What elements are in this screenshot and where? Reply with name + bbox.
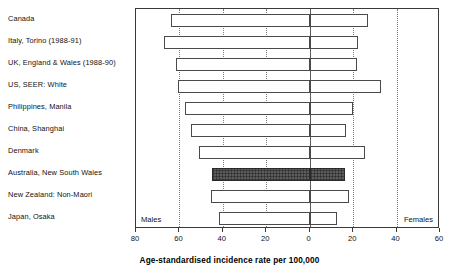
category-label: Denmark <box>8 146 133 155</box>
axis-tick-label: 20 <box>348 234 356 243</box>
males-side-label: Males <box>141 215 161 224</box>
category-label: Italy, Torino (1988-91) <box>8 36 133 45</box>
axis-tick-label: 60 <box>174 234 182 243</box>
category-label: Canada <box>8 14 133 23</box>
axis-tick <box>439 228 440 232</box>
chart-figure: CanadaItaly, Torino (1988-91)UK, England… <box>0 0 459 280</box>
plot-annotations: Males Females <box>136 9 438 227</box>
axis-tick <box>178 228 179 232</box>
axis-tick <box>309 228 310 232</box>
category-label: New Zealand: Non-Maori <box>8 190 133 199</box>
axis-tick-label: 20 <box>261 234 269 243</box>
axis-tick-label: 80 <box>131 234 139 243</box>
axis-tick <box>265 228 266 232</box>
category-label: Philippines, Manila <box>8 102 133 111</box>
axis-tick <box>135 228 136 232</box>
x-axis-title: Age-standardised incidence rate per 100,… <box>0 256 459 265</box>
plot-area: Males Females <box>135 8 439 228</box>
category-axis-labels: CanadaItaly, Torino (1988-91)UK, England… <box>0 8 133 228</box>
category-label: Japan, Osaka <box>8 212 133 221</box>
axis-tick <box>352 228 353 232</box>
category-label: UK, England & Wales (1988-90) <box>8 58 133 67</box>
category-label: US, SEER: White <box>8 80 133 89</box>
axis-tick-label: 0 <box>307 234 311 243</box>
axis-tick-label: 40 <box>218 234 226 243</box>
axis-tick-label: 40 <box>391 234 399 243</box>
x-axis: 806040200204060 <box>135 228 439 250</box>
axis-tick <box>396 228 397 232</box>
category-label: Australia, New South Wales <box>8 168 133 177</box>
axis-tick-label: 60 <box>435 234 443 243</box>
category-label: China, Shanghai <box>8 124 133 133</box>
axis-tick <box>222 228 223 232</box>
females-side-label: Females <box>404 215 433 224</box>
